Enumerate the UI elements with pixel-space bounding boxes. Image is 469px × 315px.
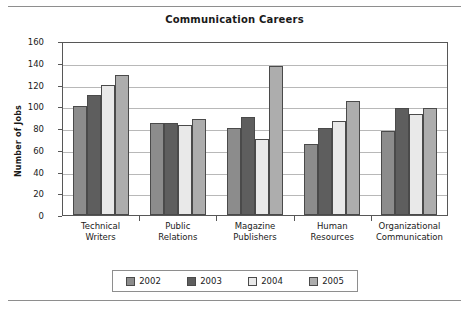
chart-title: Communication Careers — [0, 14, 469, 25]
page-rule-bottom — [8, 300, 461, 301]
bar — [73, 106, 87, 215]
bar — [346, 101, 360, 215]
legend-swatch-icon — [126, 277, 135, 286]
bar — [164, 123, 178, 215]
bar — [241, 117, 255, 215]
legend-swatch-icon — [248, 277, 257, 286]
bar — [318, 128, 332, 215]
x-axis-category-label: OrganizationalCommunication — [371, 221, 448, 243]
x-axis-category-label-line: Resources — [294, 232, 371, 243]
bar-group — [370, 43, 447, 215]
bar — [304, 144, 318, 215]
plot-area — [62, 42, 448, 216]
legend-swatch-icon — [309, 277, 318, 286]
y-axis-tick-mark — [58, 216, 62, 217]
legend-item: 2004 — [248, 276, 283, 286]
x-axis-category-label: MagazinePublishers — [216, 221, 293, 243]
x-axis-category-label-line: Writers — [62, 232, 139, 243]
bar — [381, 131, 395, 215]
y-axis-tick-label: 120 — [4, 82, 44, 90]
bar-group — [293, 43, 370, 215]
legend-label: 2003 — [200, 276, 222, 286]
y-axis-tick-label: 160 — [4, 38, 44, 46]
bar — [101, 85, 115, 216]
legend-swatch-icon — [187, 277, 196, 286]
bar — [255, 139, 269, 215]
bar — [269, 66, 283, 215]
y-axis-tick-label: 0 — [4, 212, 44, 220]
page-rule-top — [8, 6, 461, 7]
chart-figure: Communication Careers Number of Jobs 020… — [0, 8, 469, 298]
y-axis-tick-label: 140 — [4, 60, 44, 68]
legend-item: 2003 — [187, 276, 222, 286]
x-axis-category-label-line: Magazine — [216, 221, 293, 232]
x-axis-category-label-line: Public — [139, 221, 216, 232]
bar — [227, 128, 241, 215]
legend-item: 2005 — [309, 276, 344, 286]
y-axis-tick-label: 100 — [4, 103, 44, 111]
x-axis-category-label-line: Communication — [371, 232, 448, 243]
x-axis-category-label: HumanResources — [294, 221, 371, 243]
bar-groups — [63, 43, 447, 215]
legend-label: 2002 — [139, 276, 161, 286]
x-axis-category-label-line: Human — [294, 221, 371, 232]
x-axis-category-labels: TechnicalWritersPublicRelationsMagazineP… — [62, 221, 448, 243]
bar — [150, 123, 164, 215]
x-axis-category-label: PublicRelations — [139, 221, 216, 243]
x-axis-category-label-line: Organizational — [371, 221, 448, 232]
chart-legend: 2002200320042005 — [112, 270, 358, 292]
bar — [332, 121, 346, 215]
x-axis-category-label-line: Technical — [62, 221, 139, 232]
bar — [115, 75, 129, 215]
legend-label: 2005 — [322, 276, 344, 286]
bar — [423, 108, 437, 215]
x-axis-category-label: TechnicalWriters — [62, 221, 139, 243]
legend-item: 2002 — [126, 276, 161, 286]
bar — [395, 108, 409, 215]
x-axis-category-label-line: Relations — [139, 232, 216, 243]
bar — [178, 125, 192, 215]
bar-group — [140, 43, 217, 215]
y-axis-tick-label: 60 — [4, 147, 44, 155]
y-axis-tick-label: 80 — [4, 125, 44, 133]
bar — [87, 95, 101, 215]
y-axis-tick-label: 40 — [4, 169, 44, 177]
x-axis-category-label-line: Publishers — [216, 232, 293, 243]
legend-label: 2004 — [261, 276, 283, 286]
y-axis-tick-label: 20 — [4, 190, 44, 198]
bar-group — [217, 43, 294, 215]
bar — [409, 114, 423, 215]
bar — [192, 119, 206, 215]
bar-group — [63, 43, 140, 215]
